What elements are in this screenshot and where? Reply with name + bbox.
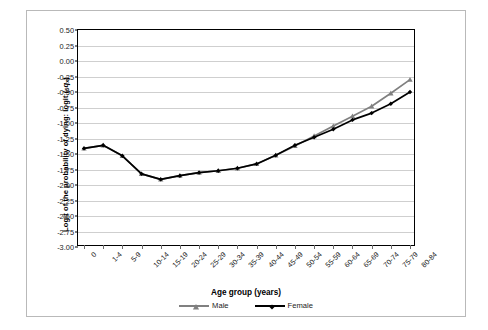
y-tick-label: -2.50 <box>57 212 74 221</box>
y-tick-label: 0.00 <box>60 57 74 66</box>
y-tick-label: -0.25 <box>57 72 74 81</box>
y-tick-label: 0.50 <box>60 26 74 35</box>
y-tick-label: -0.75 <box>57 103 74 112</box>
legend-label: Male <box>212 301 228 310</box>
y-tick-label: -2.75 <box>57 227 74 236</box>
y-tick-label: -2.00 <box>57 181 74 190</box>
y-tick-label: -0.50 <box>57 88 74 97</box>
legend-swatch <box>255 301 285 310</box>
y-tick-label: -1.25 <box>57 134 74 143</box>
y-tick-label: 0.25 <box>60 41 74 50</box>
legend-label: Female <box>288 301 313 310</box>
legend-swatch <box>179 301 209 310</box>
series-layer <box>78 30 416 247</box>
series-line <box>84 80 410 180</box>
series-female <box>82 90 412 182</box>
y-tick-label: -3.00 <box>57 243 74 252</box>
data-point <box>407 77 412 82</box>
y-tick-label: -2.25 <box>57 196 74 205</box>
series-line <box>84 92 410 179</box>
chart-figure: Logit of the probability of dying: logit… <box>0 0 488 330</box>
triangle-marker-icon <box>192 303 200 311</box>
diamond-marker-icon <box>268 303 276 311</box>
x-axis-title: Age group (years) <box>77 288 415 297</box>
y-tick-label: -1.75 <box>57 165 74 174</box>
legend-item-female[interactable]: Female <box>255 301 313 310</box>
legend-item-male[interactable]: Male <box>179 301 228 310</box>
y-tick-label: -1.50 <box>57 150 74 159</box>
y-tick-label: -1.00 <box>57 119 74 128</box>
plot-area: 0.500.250.00-0.25-0.50-0.75-1.00-1.25-1.… <box>77 29 415 246</box>
chart-legend: MaleFemale <box>77 301 415 310</box>
